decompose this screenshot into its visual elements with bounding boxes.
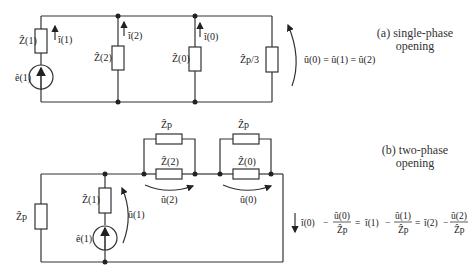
caption-b: (b) two-phase opening: [360, 144, 469, 170]
label-i2-a: î(2): [127, 30, 142, 42]
svg-text:Ẑp: Ẑp: [337, 224, 348, 235]
label-z2-a: Ẑ(2): [94, 52, 112, 64]
label-e1-a: ê(1): [15, 72, 31, 84]
label-z1-b: Ẑ(1): [82, 194, 100, 206]
svg-text:Ẑp: Ẑp: [398, 224, 409, 235]
svg-text:î(2): î(2): [423, 218, 438, 229]
label-zp-top1-b: Ẑp: [161, 119, 172, 130]
label-i0-a: î(0): [203, 31, 218, 43]
label-z0-a: Ẑ(0): [172, 53, 190, 65]
svg-text:−: −: [323, 218, 328, 228]
svg-text:−: −: [385, 218, 390, 228]
label-zp-left-b: Ẑp: [16, 211, 27, 222]
svg-text:î(1): î(1): [364, 218, 379, 229]
label-z1-a: Ẑ(1): [19, 35, 37, 47]
label-zp-top2-b: Ẑp: [238, 119, 249, 130]
svg-text:−: −: [443, 218, 448, 228]
caption-a: (a) single-phase opening: [360, 27, 469, 53]
svg-text:=: =: [355, 218, 360, 228]
label-u0-b: û(0): [240, 194, 257, 206]
label-z0-b: Ẑ(0): [238, 156, 256, 168]
svg-text:û(2): û(2): [451, 211, 467, 222]
svg-text:=: =: [415, 218, 420, 228]
equation-b: î(0) − û(0) Ẑp = î(1) − û(1) Ẑp = î(2) −…: [300, 211, 468, 235]
svg-text:Ẑp: Ẑp: [454, 224, 465, 235]
svg-text:û(1): û(1): [395, 211, 411, 222]
equation-a: û(0) = û(1) = û(2): [304, 54, 375, 66]
svg-text:û(0): û(0): [334, 211, 350, 222]
label-z2-b: Ẑ(2): [161, 156, 179, 168]
label-e1-b: ê(1): [76, 233, 92, 245]
label-i1-a: î(1): [57, 34, 72, 46]
label-u1-b: û(1): [128, 209, 145, 221]
label-zp3-a: Ẑp/3: [240, 54, 259, 65]
svg-text:î(0): î(0): [300, 218, 315, 229]
label-u2-b: û(2): [161, 194, 178, 206]
